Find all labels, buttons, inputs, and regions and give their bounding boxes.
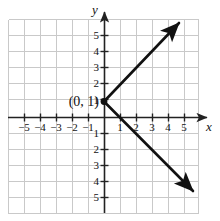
x-tick-label: 5 — [181, 121, 187, 133]
vertex-point-marker — [101, 98, 108, 105]
vertex-point-label: (0, 1) — [69, 94, 100, 110]
x-tick-label: −2 — [66, 121, 78, 133]
x-tick-label: 1 — [117, 121, 123, 133]
x-tick-label: −3 — [50, 121, 62, 133]
y-tick-label: 5 — [94, 29, 100, 41]
y-tick-label: 2 — [94, 143, 100, 155]
y-tick-label: 2 — [94, 77, 100, 89]
coordinate-plane: −5 −4 −3 −2 −1 1 2 3 4 5 5 4 3 2 1 1 2 3… — [0, 0, 220, 221]
grid-lines — [9, 20, 199, 214]
x-tick-label: −1 — [82, 121, 94, 133]
y-tick-label: 5 — [94, 191, 100, 203]
lower-ray — [104, 102, 193, 192]
y-tick-labels-negative: 1 2 3 4 5 — [94, 127, 100, 203]
y-tick-label: 3 — [94, 61, 100, 73]
x-axis-label: x — [205, 119, 212, 134]
x-tick-label: −5 — [18, 121, 30, 133]
y-tick-label: 4 — [94, 175, 100, 187]
y-tick-label: 4 — [94, 45, 100, 57]
x-tick-labels-negative: −5 −4 −3 −2 −1 — [18, 121, 94, 133]
x-tick-label: 3 — [149, 121, 155, 133]
graph-figure: −5 −4 −3 −2 −1 1 2 3 4 5 5 4 3 2 1 1 2 3… — [0, 0, 220, 221]
y-tick-label: 1 — [94, 127, 100, 139]
y-axis-label: y — [90, 2, 98, 17]
x-tick-label: −4 — [34, 121, 46, 133]
upper-ray — [104, 23, 179, 102]
x-tick-label: 4 — [165, 121, 171, 133]
y-tick-label: 3 — [94, 159, 100, 171]
